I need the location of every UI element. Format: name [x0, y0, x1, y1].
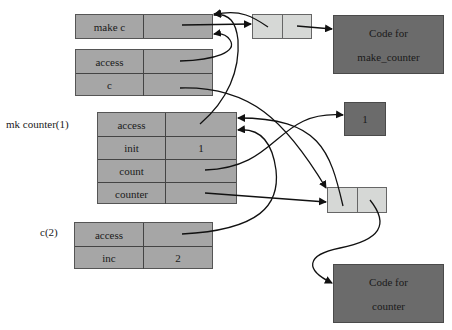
var-value: [166, 160, 236, 182]
frame-row: access: [98, 113, 236, 136]
frame-row: c: [76, 73, 212, 96]
code-line: counter: [372, 294, 405, 318]
var-value: [166, 113, 236, 136]
code-line: Code for: [369, 270, 408, 294]
var-name: access: [98, 113, 166, 136]
code-block-counter: Code for counter: [333, 264, 444, 323]
frame-row: access: [76, 50, 212, 73]
var-value: [144, 15, 212, 38]
var-value: 1: [166, 137, 236, 159]
frame-label-c-call: c(2): [40, 226, 58, 238]
closure-pair-counter: [327, 187, 387, 213]
var-name: access: [76, 50, 144, 73]
code-block-make-counter: Code for make_counter: [333, 15, 444, 74]
var-name: counter: [98, 183, 166, 204]
frame-row: init 1: [98, 136, 236, 159]
frame-row: make c: [76, 15, 212, 38]
frame-row: inc 2: [75, 246, 212, 269]
frame-label-mk-counter: mk counter(1): [6, 118, 69, 130]
closure-pair-make-counter: [252, 14, 312, 39]
pair-env-cell: [328, 188, 358, 212]
global-frame-make-c: make c: [75, 14, 213, 39]
value-box-count: 1: [344, 102, 386, 136]
var-name: c: [76, 74, 144, 96]
var-value: [144, 74, 212, 96]
frame-row: access: [75, 223, 212, 246]
var-name: init: [98, 137, 166, 159]
frame-row: counter: [98, 182, 236, 204]
c-call-frame: access inc 2: [74, 222, 213, 269]
var-value: [144, 50, 212, 73]
var-name: access: [75, 223, 144, 246]
var-value: [144, 223, 212, 246]
code-line: make_counter: [357, 45, 419, 69]
code-line: Code for: [369, 21, 408, 45]
value-text: 1: [362, 107, 368, 131]
var-name: make c: [76, 15, 144, 38]
pair-code-cell: [358, 188, 386, 212]
var-value: 2: [144, 247, 212, 269]
mk-counter-frame: access init 1 count counter: [97, 112, 237, 204]
var-value: [166, 183, 236, 204]
frame-row: count: [98, 159, 236, 182]
global-frame-access-c: access c: [75, 49, 213, 96]
pair-env-cell: [253, 15, 283, 38]
var-name: inc: [75, 247, 144, 269]
var-name: count: [98, 160, 166, 182]
pair-code-cell: [283, 15, 311, 38]
